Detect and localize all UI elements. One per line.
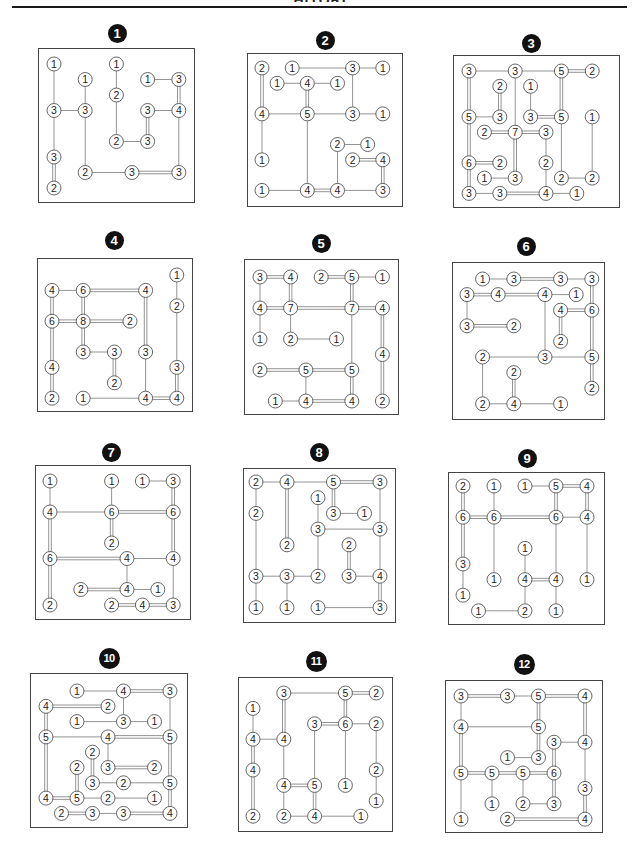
island-node: 3: [454, 689, 468, 703]
island-node: 4: [578, 689, 592, 703]
island-node: 4: [578, 812, 592, 826]
island-value: 4: [582, 736, 588, 748]
island-node: 3: [547, 797, 561, 811]
island-node: 5: [532, 720, 546, 734]
island-node: 5: [532, 689, 546, 703]
island-node: 5: [485, 766, 499, 780]
island-value: 4: [458, 721, 464, 733]
island-node: 4: [454, 720, 468, 734]
island-value: 5: [458, 767, 464, 779]
island-value: 1: [458, 813, 464, 825]
island-value: 3: [582, 782, 588, 794]
island-node: 1: [485, 797, 499, 811]
bridges-layer: 335445341355563123124: [0, 0, 641, 854]
island-value: 1: [489, 798, 495, 810]
island-node: 5: [516, 766, 530, 780]
island-value: 2: [520, 798, 526, 810]
island-node: 1: [501, 751, 515, 765]
island-value: 3: [551, 798, 557, 810]
island-value: 6: [551, 767, 557, 779]
island-value: 3: [505, 690, 511, 702]
island-node: 3: [578, 781, 592, 795]
island-value: 3: [551, 736, 557, 748]
island-node: 2: [516, 797, 530, 811]
island-node: 4: [578, 735, 592, 749]
island-value: 5: [489, 767, 495, 779]
island-node: 3: [532, 751, 546, 765]
island-value: 5: [520, 767, 526, 779]
island-node: 3: [501, 689, 515, 703]
island-node: 3: [547, 735, 561, 749]
island-value: 4: [582, 690, 588, 702]
island-value: 3: [458, 690, 464, 702]
island-value: 5: [536, 690, 542, 702]
island-value: 3: [536, 751, 542, 763]
island-value: 2: [505, 813, 511, 825]
island-node: 1: [454, 812, 468, 826]
island-value: 5: [536, 721, 542, 733]
island-value: 1: [505, 751, 511, 763]
island-node: 5: [454, 766, 468, 780]
island-value: 4: [582, 813, 588, 825]
island-node: 6: [547, 766, 561, 780]
island-node: 2: [501, 812, 515, 826]
